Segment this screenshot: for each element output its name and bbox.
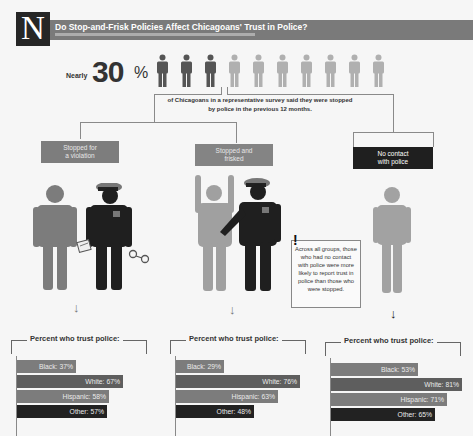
panel-title: Percent who trust police:: [27, 334, 123, 343]
bar-other: Other: 57%: [17, 405, 107, 418]
stopped-frisked-illustration: [192, 175, 292, 293]
stat-description: of Chicagoans in a representative survey…: [140, 96, 380, 114]
civilian-figure: [33, 185, 77, 290]
bar-other: Other: 65%: [331, 408, 435, 421]
trust-panel-no-contact: Percent who trust police: Black: 53% Whi…: [325, 336, 465, 436]
note-box: Across all groups, those who had no cont…: [291, 240, 361, 308]
people-row: [155, 54, 386, 88]
panel-title: Percent who trust police:: [186, 334, 282, 343]
stat-value: 30: [92, 55, 123, 89]
category-stopped-frisked: Stopped andfrisked: [195, 144, 273, 166]
stat-prefix: Nearly: [66, 72, 87, 79]
person-icon: [251, 54, 266, 88]
officer-figure: [86, 183, 132, 290]
page-title: Do Stop-and-Frisk Policies Affect Chicag…: [55, 22, 308, 32]
person-icon: [371, 54, 386, 88]
category-stopped-violation: Stopped fora violation: [41, 141, 119, 163]
bar-white: White: 76%: [176, 375, 300, 388]
category-no-contact: No contactwith police: [353, 147, 433, 169]
bar-white: White: 81%: [331, 378, 462, 391]
bar-hispanic: Hispanic: 58%: [17, 390, 109, 403]
trust-panel-stopped-frisked: Percent who trust police: Black: 29% Whi…: [170, 334, 310, 436]
person-icon: [347, 54, 362, 88]
stat-description-line1: of Chicagoans in a representative survey…: [140, 96, 380, 105]
arrow-down-icon: ↓: [73, 301, 80, 314]
bar-black: Black: 29%: [176, 360, 224, 373]
bar-hispanic: Hispanic: 63%: [176, 390, 278, 403]
bar-black: Black: 53%: [331, 363, 418, 376]
exclamation-icon: !: [293, 233, 298, 247]
stopped-violation-illustration: [30, 183, 160, 293]
panel-title: Percent who trust police:: [341, 336, 437, 345]
arrow-down-icon: ↓: [390, 307, 397, 320]
ticket-icon: [77, 240, 91, 253]
person-icon: [323, 54, 338, 88]
no-contact-illustration: [372, 186, 412, 296]
person-icon: [227, 54, 242, 88]
stat-description-line2: by police in the previous 12 months.: [140, 105, 380, 114]
arrow-down-icon: ↓: [229, 303, 236, 316]
stat-unit: %: [134, 64, 148, 82]
civilian-hands-up-figure: [195, 175, 234, 291]
trust-panel-stopped-violation: Percent who trust police: Black: 37% Whi…: [11, 334, 151, 436]
logo: N: [16, 12, 50, 46]
person-icon: [275, 54, 290, 88]
handcuffs-icon: [130, 251, 149, 263]
person-icon-highlighted: [155, 54, 170, 88]
bar-black: Black: 37%: [17, 360, 76, 373]
person-icon: [299, 54, 314, 88]
page-subtitle: [55, 32, 255, 36]
bar-white: White: 67%: [17, 375, 123, 388]
civilian-figure: [373, 187, 411, 293]
bar-hispanic: Hispanic: 71%: [331, 393, 447, 406]
person-icon-highlighted: [203, 54, 218, 88]
person-icon-highlighted: [179, 54, 194, 88]
bar-other: Other: 48%: [176, 405, 254, 418]
